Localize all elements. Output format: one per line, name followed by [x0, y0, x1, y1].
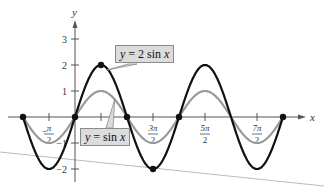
svg-text:−2: −2	[56, 164, 67, 175]
svg-text:2: 2	[203, 135, 208, 145]
svg-text:x: x	[309, 111, 315, 123]
svg-text:5π: 5π	[200, 123, 210, 133]
svg-text:3: 3	[62, 34, 67, 45]
svg-text:2: 2	[62, 60, 67, 71]
svg-text:7π: 7π	[252, 123, 262, 133]
label-2sin: y = 2 sin x	[115, 45, 174, 63]
chart-canvas: xy321−1−2−π23π25π27π2	[0, 0, 324, 190]
svg-text:π: π	[47, 123, 52, 133]
svg-text:y: y	[71, 6, 77, 18]
svg-text:3π: 3π	[147, 123, 158, 133]
svg-text:1: 1	[62, 86, 67, 97]
label-sin: y = sin x	[80, 128, 130, 146]
